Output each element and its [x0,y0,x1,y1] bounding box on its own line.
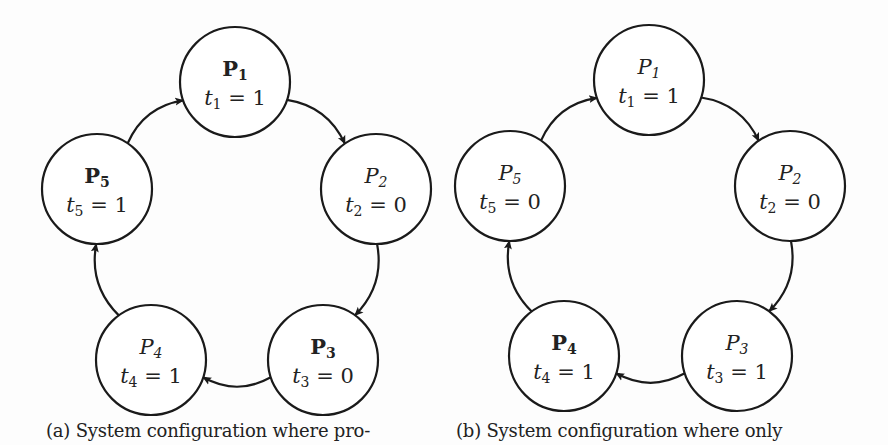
node-p3: P3t3 = 0 [268,305,378,415]
node-p5-circle [42,134,152,244]
node-p3: P3t3 = 1 [682,301,792,411]
node-p4: P4t4 = 1 [509,301,619,411]
edge-p4-to-p5 [95,244,119,315]
node-p3-circle [682,301,792,411]
node-p4-circle [509,301,619,411]
node-p2: P2t2 = 0 [321,134,431,244]
node-p4-circle [96,305,206,415]
ring-diagram-canvas: P1t1 = 1P2t2 = 0P3t3 = 0P4t4 = 1P5t5 = 1… [0,0,888,445]
subfigure-a-ring: P1t1 = 1P2t2 = 0P3t3 = 0P4t4 = 1P5t5 = 1 [42,27,431,415]
subfigure-b-ring: P1t1 = 1P2t2 = 0P3t3 = 1P4t4 = 1P5t5 = 0 [455,25,845,411]
node-p3-circle [268,305,378,415]
edge-p2-to-p3 [355,244,379,315]
node-p1: P1t1 = 1 [594,25,704,135]
node-p5-circle [455,131,565,241]
node-p2-circle [735,131,845,241]
edge-p5-to-p1 [541,98,597,141]
edge-p1-to-p2 [701,98,759,141]
edge-p5-to-p1 [128,100,183,143]
node-p1-circle [180,27,290,137]
node-p2: P2t2 = 0 [735,131,845,241]
edge-p2-to-p3 [769,241,792,311]
node-p5: P5t5 = 0 [455,131,565,241]
edge-p3-to-p4 [616,373,685,383]
edge-p3-to-p4 [203,377,271,386]
node-p2-circle [321,134,431,244]
node-p4: P4t4 = 1 [96,305,206,415]
edge-p1-to-p2 [287,100,345,144]
node-p1-circle [594,25,704,135]
caption-subfigure-a: (a) System configuration where pro- [46,420,370,441]
edge-p4-to-p5 [508,241,532,312]
node-p5: P5t5 = 1 [42,134,152,244]
caption-subfigure-b: (b) System configuration where only [456,420,782,441]
node-p1: P1t1 = 1 [180,27,290,137]
